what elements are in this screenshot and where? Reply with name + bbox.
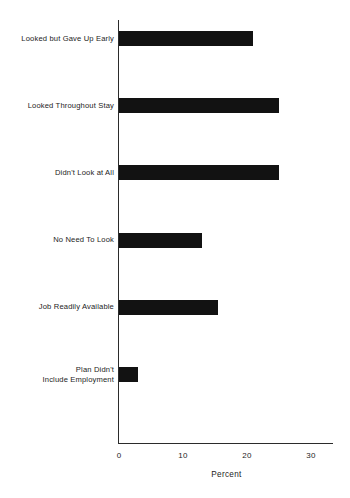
bar-category-label: Job Readily Available <box>2 302 114 313</box>
bar-chart: Looked but Gave Up EarlyLooked Throughou… <box>0 0 350 498</box>
bar <box>119 31 253 46</box>
bar <box>119 367 138 382</box>
bar-row: Plan Didn't Include Employment <box>0 367 350 382</box>
bar <box>119 98 279 113</box>
bar <box>119 300 218 315</box>
bar-row: Didn't Look at All <box>0 165 350 180</box>
x-axis-title: Percent <box>119 470 334 479</box>
bar-category-label: No Need To Look <box>2 235 114 246</box>
bar-row: No Need To Look <box>0 233 350 248</box>
bar-row: Job Readily Available <box>0 300 350 315</box>
bar-row: Looked Throughout Stay <box>0 98 350 113</box>
bar-category-label: Didn't Look at All <box>2 168 114 179</box>
bar-category-label: Looked Throughout Stay <box>2 100 114 111</box>
bar-category-label: Plan Didn't Include Employment <box>2 364 114 385</box>
bar <box>119 165 279 180</box>
x-tick-label: 0 <box>104 451 134 460</box>
bar-category-label: Looked but Gave Up Early <box>2 33 114 44</box>
x-tick-label: 20 <box>232 451 262 460</box>
x-tick-label: 30 <box>296 451 326 460</box>
bar <box>119 233 202 248</box>
x-tick-label: 10 <box>168 451 198 460</box>
bar-row: Looked but Gave Up Early <box>0 31 350 46</box>
x-axis-line <box>118 443 333 444</box>
